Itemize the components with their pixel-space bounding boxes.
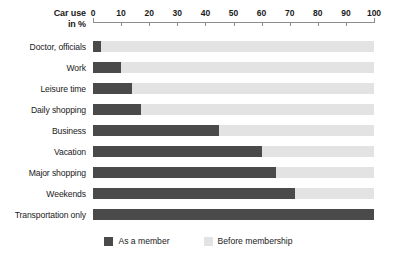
bar-as-a-member [93, 167, 276, 178]
bar-as-a-member [93, 104, 141, 115]
legend-label: As a member [118, 236, 169, 246]
category-label: Major shopping [0, 168, 86, 178]
x-tick-label: 70 [285, 8, 294, 18]
bar-rows: Doctor, officialsWorkLeisure timeDaily s… [0, 38, 397, 227]
axis-title-line1: Car use [0, 8, 86, 19]
x-tick-label: 10 [116, 8, 125, 18]
x-tick-label: 50 [229, 8, 238, 18]
bar-as-a-member [93, 125, 219, 136]
bar-row: Vacation [0, 143, 397, 164]
x-tick-label: 30 [173, 8, 182, 18]
bar-as-a-member [93, 62, 121, 73]
bar-before-membership [93, 167, 374, 178]
legend-item: As a member [104, 236, 169, 246]
bar-before-membership [93, 62, 374, 73]
category-label: Daily shopping [0, 105, 86, 115]
x-tick-label: 80 [313, 8, 322, 18]
category-label: Transportation only [0, 210, 86, 220]
axis-title: Car use in % [0, 8, 86, 29]
category-label: Business [0, 126, 86, 136]
x-tick-mark [290, 22, 291, 26]
x-tick-label: 0 [91, 8, 96, 18]
legend-swatch-icon [204, 237, 213, 246]
x-tick-mark [374, 18, 375, 23]
legend-label: Before membership [218, 236, 293, 246]
bar-row: Major shopping [0, 164, 397, 185]
bar-row: Leisure time [0, 80, 397, 101]
bar-before-membership [93, 104, 374, 115]
bar-row: Business [0, 122, 397, 143]
bar-before-membership [93, 83, 374, 94]
category-label: Work [0, 63, 86, 73]
x-tick-label: 90 [341, 8, 350, 18]
bar-as-a-member [93, 83, 132, 94]
bar-as-a-member [93, 188, 295, 199]
bar-row: Weekends [0, 185, 397, 206]
car-use-bar-chart: Car use in % 0102030405060708090100 Doct… [0, 0, 397, 268]
x-tick-label: 60 [257, 8, 266, 18]
bar-before-membership [93, 125, 374, 136]
x-axis-scale: 0102030405060708090100 [93, 8, 374, 30]
bar-before-membership [93, 41, 374, 52]
legend-item: Before membership [204, 236, 293, 246]
category-label: Leisure time [0, 84, 86, 94]
category-label: Vacation [0, 147, 86, 157]
x-tick-mark [205, 22, 206, 26]
x-tick-label: 100 [367, 8, 381, 18]
category-label: Doctor, officials [0, 42, 86, 52]
bar-row: Daily shopping [0, 101, 397, 122]
bar-before-membership [93, 209, 374, 220]
axis-title-line2: in % [0, 19, 86, 30]
bar-row: Work [0, 59, 397, 80]
bar-as-a-member [93, 41, 101, 52]
x-tick-mark [177, 22, 178, 26]
x-tick-mark [346, 22, 347, 26]
category-label: Weekends [0, 189, 86, 199]
bar-row: Doctor, officials [0, 38, 397, 59]
bar-as-a-member [93, 209, 374, 220]
x-tick-label: 40 [201, 8, 210, 18]
x-tick-label: 20 [144, 8, 153, 18]
x-tick-mark [121, 22, 122, 26]
bar-before-membership [93, 188, 374, 199]
x-tick-mark [262, 22, 263, 26]
x-tick-mark [234, 22, 235, 26]
x-tick-mark [149, 22, 150, 26]
legend-swatch-icon [104, 237, 113, 246]
x-tick-mark [93, 18, 94, 23]
bar-before-membership [93, 146, 374, 157]
chart-legend: As a memberBefore membership [0, 236, 397, 246]
bar-row: Transportation only [0, 206, 397, 227]
x-tick-mark [318, 22, 319, 26]
bar-as-a-member [93, 146, 262, 157]
